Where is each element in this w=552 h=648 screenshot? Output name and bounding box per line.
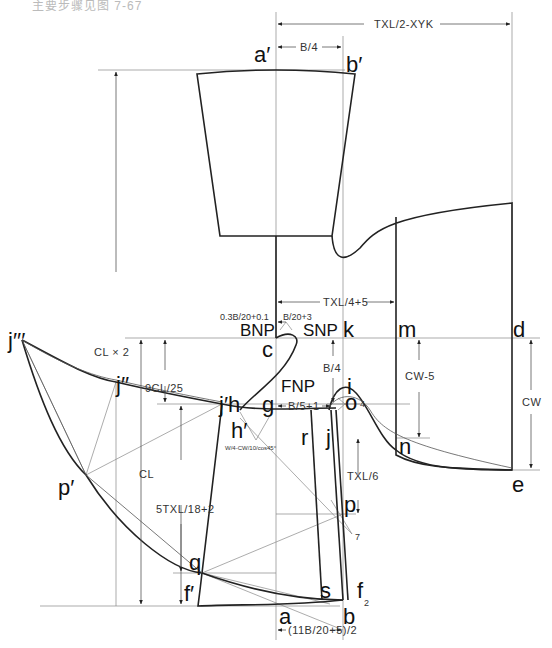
- dim-txl-sixth: TXL/6: [347, 470, 379, 482]
- label-q: q: [189, 550, 201, 575]
- label-snp: SNP: [303, 321, 338, 340]
- label-bnp: BNP: [240, 321, 275, 340]
- dim-b-quarter-side: B/4: [323, 362, 341, 374]
- label-h-prime: h′: [231, 418, 247, 443]
- label-j-triple-prime: j′′′: [7, 328, 25, 353]
- guide-lines: [22, 12, 540, 640]
- label-j-prime-h: j′h: [218, 392, 240, 417]
- dim-cw: CW: [522, 396, 541, 408]
- dim-back-neck-rise: 0.3B/20+0.1: [220, 312, 269, 322]
- label-c: c: [262, 337, 273, 362]
- mark-2: 2: [364, 598, 369, 608]
- label-d: d: [513, 317, 525, 342]
- label-r: r: [301, 425, 308, 450]
- dim-b5-plus-1: B/5+1: [288, 400, 320, 412]
- label-f-prime: f′: [184, 581, 194, 606]
- dim-neck-width: B/20+3: [283, 312, 312, 322]
- mark-4: 4: [360, 399, 365, 409]
- label-s: s: [320, 578, 331, 603]
- label-p: p: [344, 492, 356, 517]
- label-m: m: [398, 317, 416, 342]
- dim-cl-times-2: CL × 2: [94, 346, 129, 358]
- label-p-prime: p′: [58, 475, 74, 500]
- dim-txl-quarter-plus-5: TXL/4+5: [323, 296, 368, 308]
- label-fnp: FNP: [281, 377, 315, 396]
- label-a-prime: a′: [254, 42, 270, 67]
- label-o: o: [345, 390, 357, 415]
- dim-5txl-18-plus-2: 5TXL/18+2: [156, 503, 215, 515]
- dim-hem-width: (11B/20+5)/2: [288, 624, 357, 636]
- label-b-prime: b′: [346, 52, 362, 77]
- dim-txl-half-minus-xyk: TXL/2-XYK: [374, 18, 434, 30]
- mark-7: 7: [355, 532, 360, 542]
- dim-9cl-25: 9CL/25: [145, 382, 183, 394]
- label-n: n: [399, 434, 411, 459]
- pattern-drawing: a′ b′ c k m d i o n e j′′′ j′′ j′h h′ g …: [0, 0, 552, 648]
- dim-cl: CL: [139, 468, 154, 480]
- dim-cw-minus-5: CW-5: [405, 370, 435, 382]
- label-g: g: [262, 392, 274, 417]
- label-k: k: [343, 317, 355, 342]
- label-e: e: [512, 472, 524, 497]
- label-j-double-prime: j′′: [115, 372, 129, 397]
- dim-gusset-formula: W/4-CW/10/cos45°: [225, 445, 277, 451]
- dim-b-quarter-top: B/4: [300, 41, 318, 53]
- label-j: j: [325, 425, 331, 450]
- label-f: f: [357, 578, 364, 603]
